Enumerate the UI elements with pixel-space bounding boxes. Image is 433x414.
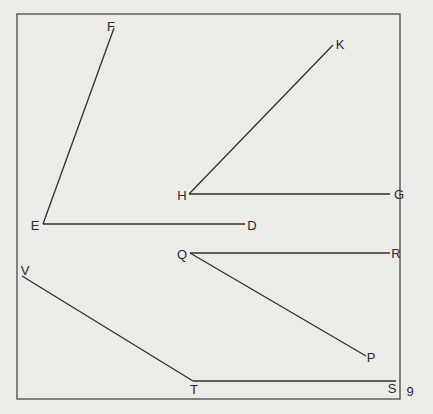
segment-qp <box>190 253 366 356</box>
point-label-e: E <box>31 219 40 232</box>
segment-ef <box>43 28 114 224</box>
point-label-q: Q <box>177 248 187 261</box>
point-label-s: S <box>388 382 397 395</box>
point-label-h: H <box>177 189 186 202</box>
segment-hk <box>189 45 333 194</box>
angle-segments <box>22 28 396 381</box>
point-label-d: D <box>247 219 256 232</box>
segment-tv <box>22 276 193 381</box>
point-label-p: P <box>367 351 376 364</box>
point-label-f: F <box>107 20 115 33</box>
page-number: 9 <box>406 385 413 398</box>
point-label-g: G <box>394 188 404 201</box>
point-label-k: K <box>336 38 345 51</box>
figure-frame <box>17 14 400 399</box>
point-label-v: V <box>21 264 30 277</box>
point-label-t: T <box>190 383 198 396</box>
point-label-r: R <box>391 247 400 260</box>
